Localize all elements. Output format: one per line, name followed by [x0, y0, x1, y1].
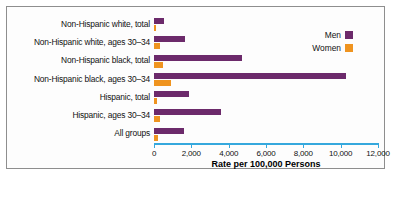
category-label: Non-Hispanic white, total: [10, 19, 150, 29]
bar-women: [154, 116, 160, 122]
category-label: Hispanic, total: [10, 92, 150, 102]
bar-women: [154, 98, 157, 104]
bar-men: [154, 55, 242, 61]
bar-row: [154, 88, 378, 106]
x-tick-label: 12,000: [366, 149, 389, 158]
legend-swatch-women: [345, 44, 353, 52]
bar-men: [154, 73, 346, 79]
bar-women: [154, 135, 158, 141]
bar-row: [154, 125, 378, 143]
bar-men: [154, 36, 185, 42]
bar-women: [154, 80, 171, 86]
category-axis-labels: Non-Hispanic white, totalNon-Hispanic wh…: [7, 15, 150, 143]
legend-label: Men: [325, 30, 341, 40]
figure-caption: [150, 176, 390, 184]
x-tick: [303, 143, 304, 148]
bar-women: [154, 25, 156, 31]
bar-men: [154, 109, 221, 115]
x-tick-label: 2,000: [182, 149, 201, 158]
x-tick: [266, 143, 267, 148]
x-tick-label: 0: [152, 149, 156, 158]
legend-item: Men: [269, 29, 353, 40]
x-axis-title: Rate per 100,000 Persons: [154, 159, 378, 169]
category-label: All groups: [10, 128, 150, 138]
bar-women: [154, 43, 160, 49]
x-tick-label: 4,000: [219, 149, 238, 158]
x-tick: [229, 143, 230, 148]
x-tick: [154, 143, 155, 148]
category-label: Non-Hispanic black, ages 30–34: [10, 74, 150, 84]
bar-women: [154, 62, 163, 68]
bar-men: [154, 128, 184, 134]
legend-item: Women: [269, 42, 353, 53]
category-label: Non-Hispanic white, ages 30–34: [10, 37, 150, 47]
bar-row: [154, 106, 378, 124]
x-tick-label: 10,000: [329, 149, 352, 158]
x-tick-label: 8,000: [294, 149, 313, 158]
bar-men: [154, 18, 164, 24]
x-tick: [378, 143, 379, 148]
category-label: Non-Hispanic black, total: [10, 55, 150, 65]
x-tick-label: 6,000: [256, 149, 275, 158]
bar-row: [154, 70, 378, 88]
chart-figure: Non-Hispanic white, totalNon-Hispanic wh…: [6, 6, 385, 169]
bar-men: [154, 91, 189, 97]
category-label: Hispanic, ages 30–34: [10, 110, 150, 120]
chart-legend: MenWomen: [269, 29, 353, 55]
x-tick: [191, 143, 192, 148]
legend-swatch-men: [345, 31, 353, 39]
x-tick: [341, 143, 342, 148]
legend-label: Women: [312, 43, 341, 53]
